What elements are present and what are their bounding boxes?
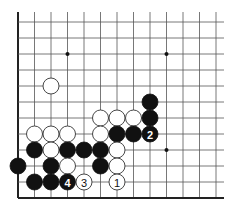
- black-stone-icon: [27, 142, 43, 158]
- black-stone: [27, 142, 43, 158]
- black-stone: [93, 142, 109, 158]
- black-stone-icon: [27, 174, 43, 190]
- black-stone-move-4: 4: [60, 174, 76, 190]
- black-stone: [76, 142, 92, 158]
- black-stone-icon: [10, 158, 26, 174]
- white-stone: [43, 78, 59, 94]
- black-stone-icon: [43, 158, 59, 174]
- black-stone: [126, 126, 142, 142]
- white-stone-icon: [109, 142, 125, 158]
- white-stone: [60, 158, 76, 174]
- white-stone-icon: [27, 126, 43, 142]
- move-number: 3: [81, 177, 87, 189]
- move-number: 4: [64, 177, 71, 189]
- white-stone-icon: [93, 126, 109, 142]
- white-stone: [126, 110, 142, 126]
- black-stone: [60, 142, 76, 158]
- black-stone-icon: [142, 94, 158, 110]
- white-stone: [60, 126, 76, 142]
- black-stone-icon: [93, 158, 109, 174]
- black-stone-icon: [142, 110, 158, 126]
- white-stone-move-1: 1: [109, 174, 125, 190]
- black-stone-icon: [60, 142, 76, 158]
- white-stone: [43, 126, 59, 142]
- white-stone-icon: [60, 158, 76, 174]
- white-stone: [93, 126, 109, 142]
- black-stone: [142, 110, 158, 126]
- white-stone: [93, 110, 109, 126]
- white-stone-icon: [43, 126, 59, 142]
- white-stone: [43, 142, 59, 158]
- white-stone-icon: [126, 110, 142, 126]
- black-stone: [27, 174, 43, 190]
- white-stone: [109, 158, 125, 174]
- black-stone-icon: [93, 142, 109, 158]
- white-stone: [27, 126, 43, 142]
- black-stone-move-2: 2: [142, 126, 158, 142]
- white-stone-move-3: 3: [76, 174, 92, 190]
- white-stone-icon: [43, 142, 59, 158]
- star-point: [165, 148, 169, 152]
- black-stone: [142, 94, 158, 110]
- star-point: [66, 52, 70, 56]
- black-stone: [93, 158, 109, 174]
- black-stone: [109, 126, 125, 142]
- white-stone-icon: [43, 78, 59, 94]
- go-board: 2431: [0, 0, 234, 210]
- go-board-diagram: 2431: [0, 0, 234, 210]
- black-stone-icon: [109, 126, 125, 142]
- black-stone-icon: [76, 142, 92, 158]
- black-stone: [43, 174, 59, 190]
- white-stone-icon: [93, 110, 109, 126]
- black-stone-icon: [43, 174, 59, 190]
- white-stone-icon: [109, 110, 125, 126]
- move-number: 1: [114, 177, 120, 189]
- white-stone: [109, 110, 125, 126]
- black-stone: [10, 158, 26, 174]
- white-stone-icon: [109, 158, 125, 174]
- white-stone-icon: [60, 126, 76, 142]
- star-point: [165, 52, 169, 56]
- move-number: 2: [147, 129, 153, 141]
- black-stone-icon: [126, 126, 142, 142]
- white-stone: [109, 142, 125, 158]
- black-stone: [43, 158, 59, 174]
